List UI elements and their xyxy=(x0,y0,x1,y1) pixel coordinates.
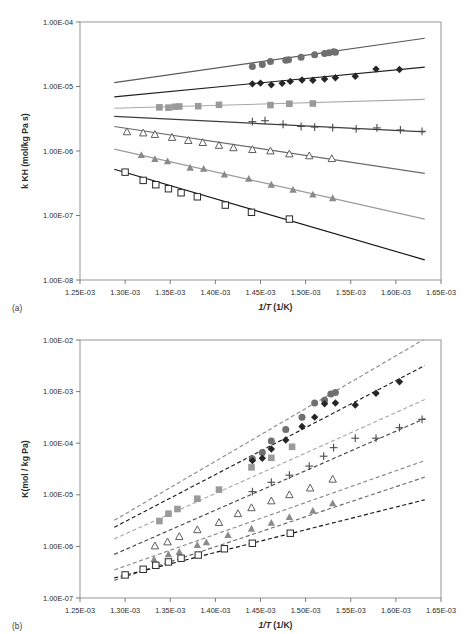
y-tick-label: 1.00E-05 xyxy=(43,490,73,499)
x-tick-label: 1.35E-03 xyxy=(155,288,185,297)
y-tick-label: 1.00E-08 xyxy=(43,276,73,285)
x-tick-label: 1.60E-03 xyxy=(381,288,411,297)
x-tick-label: 1.30E-03 xyxy=(110,288,140,297)
x-tick-label: 1.40E-03 xyxy=(200,606,230,615)
x-tick-label: 1.60E-03 xyxy=(381,606,411,615)
x-tick-label: 1.55E-03 xyxy=(336,288,366,297)
panel-label-b: (b) xyxy=(12,621,22,631)
figure-container: 1.00E-081.00E-071.00E-061.00E-051.00E-04… xyxy=(0,0,471,634)
x-tick-label: 1.55E-03 xyxy=(336,606,366,615)
x-axis-title: 1/T (1/K) xyxy=(259,302,293,312)
chart-panel-b: 1.00E-071.00E-061.00E-051.00E-041.00E-03… xyxy=(0,318,471,634)
chart-panel-a: 1.00E-081.00E-071.00E-061.00E-051.00E-04… xyxy=(0,0,471,318)
y-tick-label: 1.00E-02 xyxy=(43,336,73,345)
x-tick-label: 1.50E-03 xyxy=(291,606,321,615)
y-axis-title: k KH (mol/kg Pa s) xyxy=(20,113,30,189)
x-tick-label: 1.45E-03 xyxy=(246,606,276,615)
panel-label-a: (a) xyxy=(12,303,22,313)
chart-svg-b: 1.00E-071.00E-061.00E-051.00E-041.00E-03… xyxy=(0,318,471,634)
x-tick-label: 1.30E-03 xyxy=(110,606,140,615)
x-tick-label: 1.40E-03 xyxy=(200,288,230,297)
y-tick-label: 1.00E-04 xyxy=(43,439,73,448)
x-tick-label: 1.25E-03 xyxy=(65,288,95,297)
y-tick-label: 1.00E-04 xyxy=(43,18,73,27)
y-tick-label: 1.00E-06 xyxy=(43,542,73,551)
chart-svg-a: 1.00E-081.00E-071.00E-061.00E-051.00E-04… xyxy=(0,0,471,318)
x-axis-title: 1/T (1/K) xyxy=(259,620,293,630)
y-tick-label: 1.00E-07 xyxy=(43,594,73,603)
x-tick-label: 1.35E-03 xyxy=(155,606,185,615)
y-tick-label: 1.00E-03 xyxy=(43,387,73,396)
x-tick-label: 1.65E-03 xyxy=(426,606,456,615)
x-tick-label: 1.50E-03 xyxy=(291,288,321,297)
y-tick-label: 1.00E-05 xyxy=(43,82,73,91)
y-tick-label: 1.00E-07 xyxy=(43,211,73,220)
x-tick-label: 1.65E-03 xyxy=(426,288,456,297)
y-axis-title: K(mol / kg Pa) xyxy=(20,440,30,497)
x-tick-label: 1.45E-03 xyxy=(246,288,276,297)
y-tick-label: 1.00E-06 xyxy=(43,147,73,156)
x-tick-label: 1.25E-03 xyxy=(65,606,95,615)
